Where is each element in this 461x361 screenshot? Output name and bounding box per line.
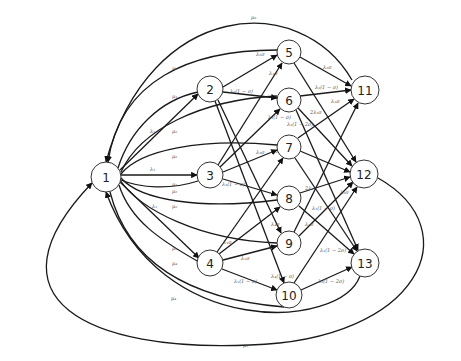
edge-9-to-1 <box>120 180 277 243</box>
node-label: 9 <box>285 237 293 251</box>
node-13: 13 <box>351 249 379 277</box>
edge-label-2-6: λ₂(1 − σ) <box>229 88 253 94</box>
edge-label-7-11: λ₁σ <box>330 98 340 104</box>
node-8: 8 <box>277 186 301 210</box>
edge-6-to-11 <box>300 90 351 96</box>
edge-label-6-1: μ₂ <box>172 128 177 135</box>
node-label: 13 <box>357 257 372 271</box>
edge-label-8-12: 2λ₁ <box>304 185 313 191</box>
edge-label-2-5: λ₂σ <box>255 51 265 57</box>
edge-label-9-12: λ₂σ <box>304 221 314 227</box>
node-label: 8 <box>285 192 293 206</box>
node-label: 11 <box>357 84 372 98</box>
edge-label-4-10: λ₄(1 − σ) <box>270 273 294 279</box>
edge-1-to-2 <box>120 94 198 170</box>
edge-label-5-1: μ₂ <box>172 65 177 72</box>
edge-6-to-12 <box>298 108 352 166</box>
edge-label-8-1: μ₂ <box>172 188 177 195</box>
edge-label-3-9: λ₄σ <box>270 221 280 227</box>
node-6: 6 <box>277 88 301 112</box>
edge-label-13-1: μ₄ <box>171 295 176 302</box>
node-label: 5 <box>285 46 293 60</box>
node-10: 10 <box>276 282 302 308</box>
node-7: 7 <box>277 135 301 159</box>
edge-label-4-10: λ₁(1 − σ) <box>233 278 257 284</box>
edge-5-to-12 <box>294 63 356 162</box>
edge-label-8-13: λ₁(1 − σ) <box>311 205 335 211</box>
edge-4-to-7 <box>217 158 283 252</box>
edge-label-3-5: λ₁σ <box>268 70 278 76</box>
edge-4-to-1 <box>119 185 199 262</box>
edge-label-5-11: λ₂σ <box>322 64 332 70</box>
edge-label-1-4: λ₁ <box>151 203 157 209</box>
node-label: 7 <box>285 141 293 155</box>
node-label: 4 <box>206 257 214 271</box>
node-12: 12 <box>350 160 378 188</box>
edge-label-4-9: λ₁σ <box>240 255 250 261</box>
edge-label-2-12: λ₂σ <box>339 189 349 195</box>
edge-label-10-1: μ₄ <box>172 260 177 267</box>
edge-label-3-7: λ₃σ <box>255 149 265 155</box>
edge-4-to-9 <box>223 246 277 260</box>
node-label: 6 <box>285 94 293 108</box>
node-2: 2 <box>197 76 223 102</box>
node-label: 12 <box>356 168 371 182</box>
state-transition-diagram: λ₁λ₁λ₁μ₁μ₁μ₁μ₂μ₂μ₂μ₂μ₂μ₄μ₃μ₃μ₄λ₂σλ₂(1 − … <box>0 0 461 361</box>
edge-label-6-12: 2λ₁σ <box>309 109 322 115</box>
edge-label-7-1: μ₂ <box>172 153 177 160</box>
edge-label-4-7: λ₁σ <box>222 239 232 245</box>
node-1: 1 <box>91 162 121 192</box>
node-4: 4 <box>197 250 223 276</box>
node-label: 3 <box>206 169 214 183</box>
edge-label-6-11: λ₂(1 − σ) <box>314 84 338 90</box>
edge-label-10-13: λ₂(1 − 2σ) <box>317 278 344 284</box>
edge-label-1-3: λ₁ <box>149 166 155 172</box>
edge-label-3-8: λ₃(1 − σ) <box>221 181 245 187</box>
edge-label-6-13: λ₂(1 − 2σ) <box>286 121 313 127</box>
node-11: 11 <box>351 76 379 104</box>
node-label: 2 <box>206 83 214 97</box>
edge-5-to-11 <box>300 57 351 86</box>
edge-label-9-13: λ₁(1 − 2σ) <box>319 247 346 253</box>
edge-label-3-6: λ₁(1 − σ) <box>267 114 291 120</box>
edge-label-1-2: λ₁ <box>149 128 155 134</box>
node-label: 10 <box>281 289 296 303</box>
edge-label-2-1: μ₁ <box>172 93 177 100</box>
edge-3-to-1 <box>121 180 198 187</box>
node-3: 3 <box>197 162 223 188</box>
node-9: 9 <box>277 231 301 255</box>
node-label: 1 <box>102 171 110 185</box>
edge-label-3-1: μ₁ <box>172 181 177 188</box>
node-5: 5 <box>277 40 301 64</box>
edge-label-12-1: μ₃ <box>243 342 248 349</box>
edge-label-9-1: μ₂ <box>172 203 177 210</box>
edge-label-4-1: μ₁ <box>172 245 177 252</box>
edge-10-to-1 <box>110 192 284 307</box>
edge-label-11-1: μ₃ <box>251 14 256 21</box>
